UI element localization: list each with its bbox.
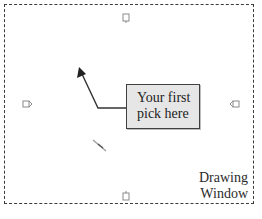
drawing-window-label: Drawing Window <box>199 170 248 202</box>
callout-box: Your first pick here <box>126 84 200 129</box>
label-line-2: Window <box>199 186 248 202</box>
label-line-1: Drawing <box>199 170 248 186</box>
callout-line-1: Your first <box>137 90 199 106</box>
callout-line-2: pick here <box>137 106 199 122</box>
